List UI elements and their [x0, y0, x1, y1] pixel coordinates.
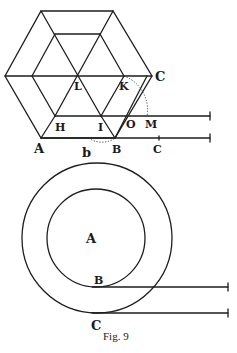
label-circle-c: C — [91, 318, 101, 333]
diag-1 — [41, 11, 101, 116]
outer-circle — [22, 163, 172, 313]
label-circle-b: B — [94, 274, 103, 287]
label-b-small: b — [82, 145, 91, 160]
figure-9-diagram: A b B C C H I L K O M A B C Fig. 9 — [0, 0, 237, 353]
label-i: I — [98, 121, 103, 134]
label-a: A — [33, 141, 45, 156]
figure-caption: Fig. 9 — [103, 330, 129, 342]
diag-4 — [100, 34, 124, 76]
label-h: H — [55, 121, 65, 134]
label-m: M — [145, 118, 157, 131]
label-c: C — [155, 69, 165, 84]
hexagon-figure: A b B C C H I L K O M — [5, 11, 210, 160]
diag-2 — [55, 11, 113, 116]
label-k: K — [119, 80, 129, 93]
diag-2b — [41, 116, 55, 138]
circles-figure: A B C — [22, 163, 228, 333]
diag-5 — [32, 76, 55, 116]
label-b: B — [112, 143, 121, 156]
label-center-a: A — [85, 231, 97, 246]
label-l: L — [74, 80, 82, 93]
diag-3 — [32, 34, 55, 76]
label-c-base: C — [153, 143, 162, 156]
label-o: O — [126, 118, 136, 131]
